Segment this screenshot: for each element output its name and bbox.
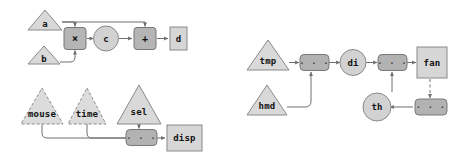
node-a[interactable]: a bbox=[28, 10, 62, 30]
node-th[interactable]: th bbox=[363, 93, 391, 121]
edge-a-to-mul bbox=[62, 22, 75, 27]
node-dots-feedback[interactable]: · · · bbox=[415, 99, 447, 115]
node-dots-sensor[interactable]: · · · bbox=[299, 55, 329, 71]
node-d[interactable]: d bbox=[170, 27, 187, 50]
diagram-canvas: a b × c + bbox=[0, 0, 451, 161]
arithmetic-graph: a b × c + bbox=[28, 10, 187, 64]
node-dots-control[interactable]: · · · bbox=[377, 55, 407, 71]
node-hmd[interactable]: hmd bbox=[247, 85, 287, 115]
node-sel[interactable]: sel bbox=[117, 85, 161, 124]
node-b[interactable]: b bbox=[28, 46, 60, 64]
edge-time-to-dots bbox=[87, 124, 132, 138]
node-tmp[interactable]: tmp bbox=[247, 40, 289, 70]
node-c[interactable]: c bbox=[94, 26, 119, 51]
ui-graph: mouse time sel · · · disp bbox=[21, 85, 202, 151]
node-fan[interactable]: fan bbox=[417, 47, 447, 78]
node-time[interactable]: time bbox=[68, 88, 106, 124]
edge-b-to-mul bbox=[60, 51, 75, 63]
node-plus[interactable]: + bbox=[134, 28, 156, 50]
node-disp[interactable]: disp bbox=[167, 125, 202, 151]
climate-control-graph: tmp hmd · · · di · · · bbox=[247, 40, 447, 121]
node-mouse[interactable]: mouse bbox=[21, 88, 63, 124]
node-multiply[interactable]: × bbox=[64, 28, 86, 50]
node-dots-ui[interactable]: · · · bbox=[126, 130, 157, 146]
edge-hmd-to-dots bbox=[287, 72, 311, 107]
node-di[interactable]: di bbox=[340, 50, 366, 76]
